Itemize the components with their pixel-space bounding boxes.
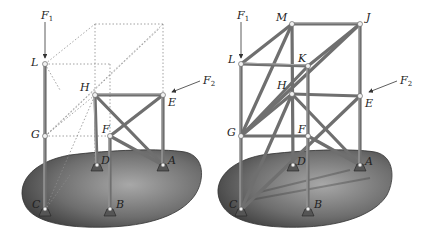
label-A: A <box>364 155 373 168</box>
label-L: L <box>30 56 38 69</box>
label-C: C <box>32 198 41 211</box>
label-H: H <box>79 81 90 94</box>
left-panel: F1 F2 L G H E F D A C B <box>22 9 215 227</box>
label-K: K <box>297 52 307 65</box>
label-B: B <box>313 198 322 211</box>
truss-diagram: F1 F2 L G H E F D A C B <box>0 0 430 236</box>
label-D: D <box>296 155 306 168</box>
label-A: A <box>167 154 176 167</box>
label-F: F <box>297 123 306 136</box>
label-M: M <box>275 11 288 24</box>
label-G: G <box>31 128 40 141</box>
label-F2: F2 <box>202 74 215 88</box>
label-F2: F2 <box>399 74 412 88</box>
right-panel: F1 F2 M J L K H E G F D A C B <box>218 9 412 227</box>
label-J: J <box>364 11 371 24</box>
label-E: E <box>364 97 373 110</box>
label-L: L <box>227 53 235 66</box>
force-F2-arrow <box>369 81 397 92</box>
label-E: E <box>167 96 176 109</box>
label-D: D <box>100 154 110 167</box>
label-F1: F1 <box>40 9 53 23</box>
label-C: C <box>229 198 238 211</box>
label-H: H <box>276 79 287 92</box>
force-F2-arrow <box>172 81 200 92</box>
label-F: F <box>101 123 110 136</box>
label-G: G <box>227 126 236 139</box>
label-F1: F1 <box>236 9 249 23</box>
label-B: B <box>115 198 124 211</box>
